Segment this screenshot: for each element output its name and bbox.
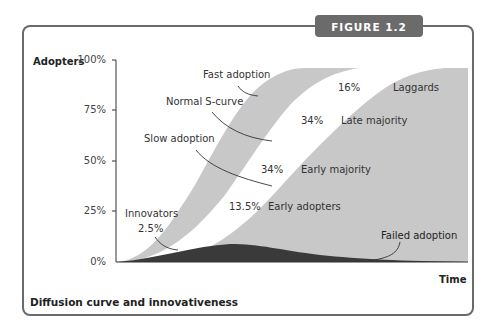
failed-adoption-label: Failed adoption xyxy=(381,230,457,241)
early-majority-label: Early majority xyxy=(301,164,371,175)
laggards-label: Laggards xyxy=(393,82,439,93)
y-tick-100: 100% xyxy=(66,54,106,65)
early-majority-pct: 34% xyxy=(261,164,283,175)
late-majority-label: Late majority xyxy=(341,115,407,126)
slow-adoption-label: Slow adoption xyxy=(144,133,215,144)
laggards-pct: 16% xyxy=(338,82,360,93)
x-axis-label: Time xyxy=(439,274,466,285)
innovators-label: Innovators xyxy=(125,208,178,219)
early-adopters-pct: 13.5% xyxy=(229,201,261,212)
fast-adoption-label: Fast adoption xyxy=(203,69,270,80)
innovators-pct: 2.5% xyxy=(138,223,163,234)
late-majority-pct: 34% xyxy=(301,115,323,126)
normal-s-curve-label: Normal S-curve xyxy=(166,96,243,107)
figure-caption: Diffusion curve and innovativeness xyxy=(30,296,238,308)
y-tick-0: 0% xyxy=(66,256,106,267)
y-tick-75: 75% xyxy=(66,104,106,115)
early-adopters-label: Early adopters xyxy=(268,201,341,212)
y-tick-50: 50% xyxy=(66,155,106,166)
y-tick-25: 25% xyxy=(66,205,106,216)
diffusion-chart xyxy=(0,0,497,334)
